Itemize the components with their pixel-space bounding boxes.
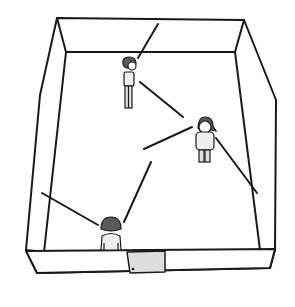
door-knob [132,268,135,271]
room-illustration [0,0,295,307]
